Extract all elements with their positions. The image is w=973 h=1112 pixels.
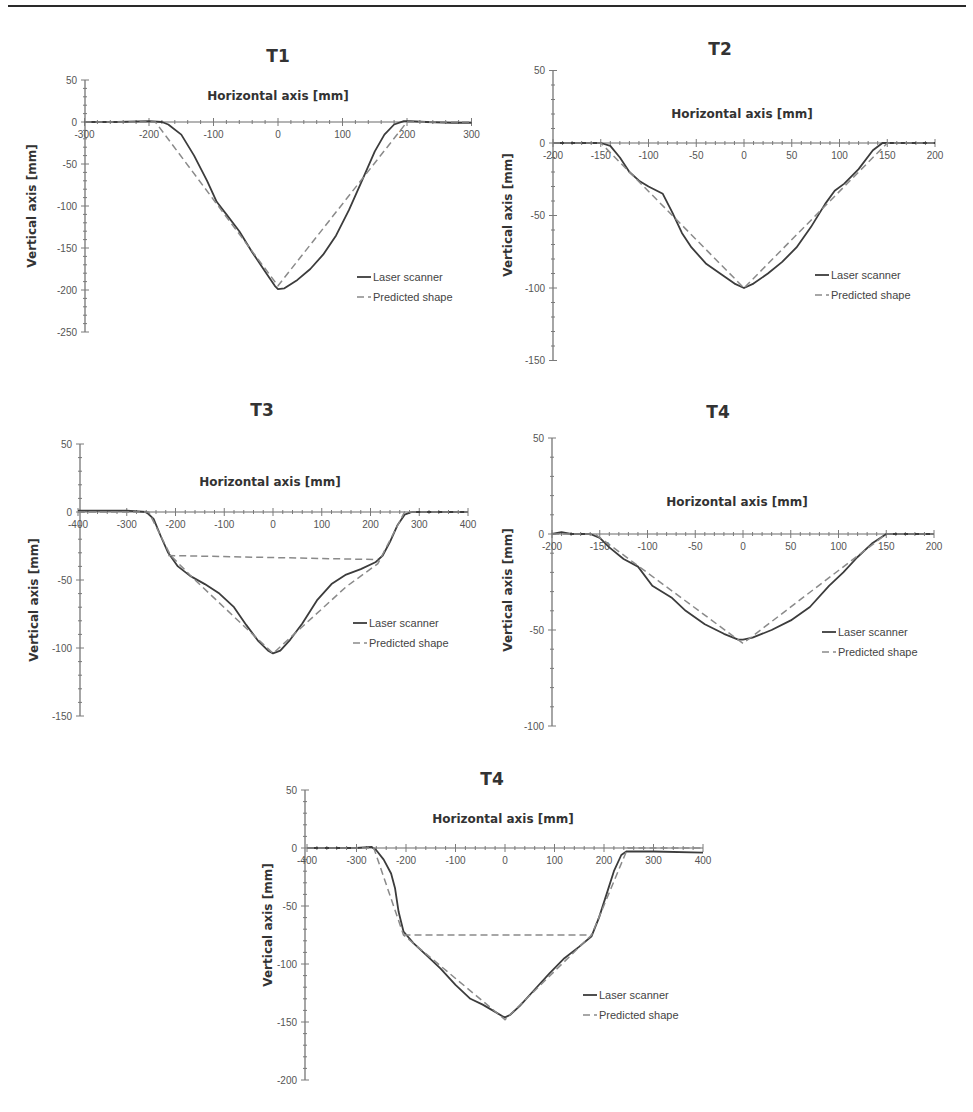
y-tick-label: -150 bbox=[52, 711, 72, 722]
chart-legend: Laser scannerPredicted shape bbox=[353, 617, 449, 649]
y-tick-label: 50 bbox=[534, 65, 546, 76]
y-tick-label: -50 bbox=[58, 575, 73, 586]
x-tick-label: -100 bbox=[203, 129, 223, 140]
x-tick-label: 150 bbox=[878, 541, 895, 552]
x-tick-label: 200 bbox=[927, 150, 944, 161]
y-tick-label: -100 bbox=[52, 643, 72, 654]
x-tick-label: 300 bbox=[463, 129, 480, 140]
x-tick-label: 300 bbox=[645, 855, 662, 866]
x-tick-label: -300 bbox=[346, 855, 366, 866]
legend-laser-scanner: Laser scanner bbox=[838, 626, 908, 638]
legend-predicted-shape: Predicted shape bbox=[838, 646, 918, 658]
legend-predicted-shape: Predicted shape bbox=[831, 289, 911, 301]
y-axis-title: Vertical axis [mm] bbox=[27, 538, 41, 661]
chart-legend: Laser scannerPredicted shape bbox=[822, 626, 918, 658]
y-tick-label: -150 bbox=[525, 355, 545, 366]
x-tick-label: 200 bbox=[399, 129, 416, 140]
y-tick-label: 0 bbox=[71, 117, 77, 128]
chart-t4b: T4500-50-100-150-200-400-300-200-1000100… bbox=[261, 769, 712, 1086]
x-tick-label: 400 bbox=[695, 855, 712, 866]
y-tick-label: 0 bbox=[291, 843, 297, 854]
x-axis-title: Horizontal axis [mm] bbox=[666, 495, 807, 509]
y-tick-label: -100 bbox=[524, 721, 544, 732]
x-tick-label: -100 bbox=[445, 855, 465, 866]
x-tick-label: 0 bbox=[270, 519, 276, 530]
x-tick-label: 200 bbox=[596, 855, 613, 866]
predicted-shape-line bbox=[78, 512, 468, 653]
predicted-shape-line bbox=[168, 556, 378, 560]
x-axis-title: Horizontal axis [mm] bbox=[199, 475, 340, 489]
legend-laser-scanner: Laser scanner bbox=[369, 617, 439, 629]
y-tick-label: -50 bbox=[283, 901, 298, 912]
x-tick-label: 100 bbox=[830, 541, 847, 552]
legend-laser-scanner: Laser scanner bbox=[373, 271, 443, 283]
x-tick-label: 200 bbox=[362, 519, 379, 530]
x-tick-label: 400 bbox=[460, 519, 477, 530]
chart-title: T3 bbox=[250, 400, 273, 420]
x-tick-label: 50 bbox=[785, 541, 797, 552]
x-tick-label: 0 bbox=[502, 855, 508, 866]
x-tick-label: 0 bbox=[740, 541, 746, 552]
y-tick-label: -50 bbox=[530, 625, 545, 636]
predicted-shape-line bbox=[85, 122, 472, 286]
x-tick-label: 100 bbox=[831, 150, 848, 161]
x-tick-label: -200 bbox=[165, 519, 185, 530]
chart-t1: T1500-50-100-150-200-250-300-200-1000100… bbox=[25, 46, 480, 338]
chart-title: T2 bbox=[708, 39, 731, 59]
chart-title: T4 bbox=[706, 402, 730, 422]
legend-laser-scanner: Laser scanner bbox=[599, 989, 669, 1001]
x-tick-label: -50 bbox=[688, 541, 703, 552]
y-tick-label: -150 bbox=[277, 1017, 297, 1028]
x-tick-label: -300 bbox=[117, 519, 137, 530]
y-tick-label: -100 bbox=[57, 201, 77, 212]
y-tick-label: -200 bbox=[277, 1075, 297, 1086]
x-tick-label: 50 bbox=[786, 150, 798, 161]
y-tick-label: 0 bbox=[66, 507, 72, 518]
predicted-shape-line bbox=[553, 143, 935, 288]
x-tick-label: 300 bbox=[411, 519, 428, 530]
x-axis-title: Horizontal axis [mm] bbox=[207, 89, 348, 103]
x-tick-label: -200 bbox=[139, 129, 159, 140]
x-axis-title: Horizontal axis [mm] bbox=[671, 107, 812, 121]
x-tick-label: 100 bbox=[546, 855, 563, 866]
y-tick-label: -250 bbox=[57, 327, 77, 338]
legend-laser-scanner: Laser scanner bbox=[831, 269, 901, 281]
y-tick-label: 0 bbox=[538, 529, 544, 540]
x-tick-label: 0 bbox=[741, 150, 747, 161]
chart-t2: T2500-50-100-150-200-150-100-50050100150… bbox=[501, 39, 944, 366]
x-tick-label: -200 bbox=[396, 855, 416, 866]
y-tick-label: -50 bbox=[63, 159, 78, 170]
x-tick-label: -200 bbox=[543, 150, 563, 161]
legend-predicted-shape: Predicted shape bbox=[373, 291, 453, 303]
y-axis-title: Vertical axis [mm] bbox=[25, 144, 39, 267]
x-tick-label: -100 bbox=[638, 150, 658, 161]
chart-legend: Laser scannerPredicted shape bbox=[583, 989, 679, 1021]
x-tick-label: 0 bbox=[275, 129, 281, 140]
laser-scanner-line bbox=[85, 121, 472, 289]
x-tick-label: -100 bbox=[214, 519, 234, 530]
figure-canvas: T1500-50-100-150-200-250-300-200-1000100… bbox=[0, 0, 973, 1112]
x-tick-label: -100 bbox=[637, 541, 657, 552]
y-tick-label: -200 bbox=[57, 285, 77, 296]
chart-t4a: T4500-50-100-200-150-100-50050100150200H… bbox=[501, 402, 943, 732]
x-tick-label: -300 bbox=[74, 129, 94, 140]
chart-legend: Laser scannerPredicted shape bbox=[815, 269, 911, 301]
laser-scanner-line bbox=[553, 143, 935, 288]
chart-title: T1 bbox=[266, 46, 289, 66]
chart-t3: T3500-50-100-150-400-300-200-10001002003… bbox=[27, 400, 477, 722]
y-axis-title: Vertical axis [mm] bbox=[501, 528, 515, 651]
y-axis-title: Vertical axis [mm] bbox=[261, 863, 275, 986]
x-tick-label: 100 bbox=[313, 519, 330, 530]
x-tick-label: -50 bbox=[689, 150, 704, 161]
y-tick-label: -50 bbox=[531, 210, 546, 221]
laser-scanner-line bbox=[78, 511, 468, 654]
y-tick-label: 0 bbox=[539, 138, 545, 149]
x-tick-label: -400 bbox=[297, 855, 317, 866]
x-tick-label: -200 bbox=[542, 541, 562, 552]
y-axis-title: Vertical axis [mm] bbox=[501, 153, 515, 276]
x-tick-label: -400 bbox=[68, 519, 88, 530]
chart-title: T4 bbox=[480, 769, 504, 789]
x-axis-title: Horizontal axis [mm] bbox=[432, 812, 573, 826]
x-tick-label: -150 bbox=[591, 150, 611, 161]
legend-predicted-shape: Predicted shape bbox=[369, 637, 449, 649]
